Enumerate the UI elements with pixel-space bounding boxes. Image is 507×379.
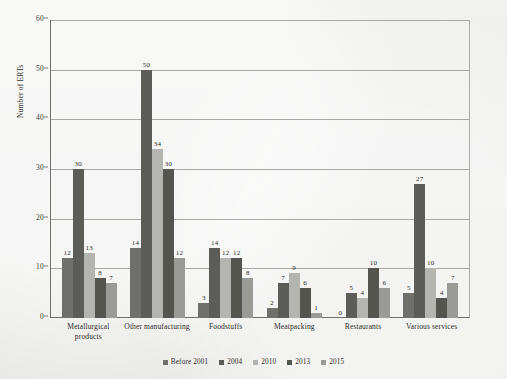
bar-group: 31412128: [198, 20, 253, 318]
bar-group: 1450343012: [130, 20, 185, 318]
bar-group: 12301387: [62, 20, 117, 318]
bar-slot: 27: [414, 20, 425, 318]
legend-swatch-icon: [253, 360, 258, 365]
bar-value-label: 34: [154, 140, 161, 148]
bar[interactable]: [73, 169, 84, 318]
bar-slot: 4: [436, 20, 447, 318]
bar[interactable]: [152, 149, 163, 318]
x-category-line: Meatpacking: [260, 322, 329, 332]
bar[interactable]: [368, 268, 379, 318]
bar[interactable]: [141, 70, 152, 318]
bar-value-label: 8: [246, 269, 250, 277]
bar-slot: 12: [62, 20, 73, 318]
bar[interactable]: [379, 288, 390, 318]
bar-value-label: 9: [292, 264, 296, 272]
bar-value-label: 5: [350, 284, 354, 292]
bar-slot: 8: [95, 20, 106, 318]
y-tick-50: 50: [36, 63, 44, 72]
bar-value-label: 1: [314, 304, 318, 312]
bar[interactable]: [414, 184, 425, 318]
y-tickmark-40: [44, 117, 48, 118]
bar[interactable]: [289, 273, 300, 318]
bar[interactable]: [311, 313, 322, 318]
legend-item[interactable]: 2010: [253, 358, 276, 366]
bar-slot: 14: [209, 20, 220, 318]
bar[interactable]: [62, 258, 73, 318]
bar-value-label: 6: [383, 279, 387, 287]
legend-swatch-icon: [163, 360, 168, 365]
legend-item[interactable]: Before 2001: [163, 358, 208, 366]
bar-group: 054106: [335, 20, 390, 318]
bar[interactable]: [425, 268, 436, 318]
bar-value-label: 14: [211, 239, 218, 247]
y-tickmark-20: [44, 216, 48, 217]
x-category-label: Metallurgicalproducts: [54, 322, 123, 356]
x-category-line: Other manufacturing: [123, 322, 192, 332]
bar[interactable]: [242, 278, 253, 318]
bar[interactable]: [346, 293, 357, 318]
bar[interactable]: [447, 283, 458, 318]
bar-slot: 12: [174, 20, 185, 318]
legend-item[interactable]: 2004: [219, 358, 242, 366]
bar-slot: 6: [379, 20, 390, 318]
bar-slot: 2: [267, 20, 278, 318]
bar-value-label: 10: [370, 259, 377, 267]
bar-groups: 1230138714503430123141212827961054106527…: [51, 20, 469, 318]
bar-value-label: 0: [339, 309, 343, 317]
bar[interactable]: [95, 278, 106, 318]
bar-value-label: 14: [132, 239, 139, 247]
bar[interactable]: [220, 258, 231, 318]
x-category-label: Other manufacturing: [123, 322, 192, 356]
bar[interactable]: [209, 248, 220, 318]
x-category-line: products: [54, 332, 123, 342]
bar[interactable]: [357, 298, 368, 318]
bar[interactable]: [198, 303, 209, 318]
bar-value-label: 12: [233, 249, 240, 257]
bar-slot: 50: [141, 20, 152, 318]
bar-value-label: 2: [270, 299, 274, 307]
bar[interactable]: [300, 288, 311, 318]
legend-label: Before 2001: [171, 358, 208, 366]
bar[interactable]: [403, 293, 414, 318]
x-category-label: Foodstuffs: [191, 322, 260, 356]
bar-slot: 4: [357, 20, 368, 318]
bar-value-label: 13: [85, 244, 92, 252]
bar-slot: 10: [368, 20, 379, 318]
bar-value-label: 7: [281, 274, 285, 282]
bar-slot: 8: [242, 20, 253, 318]
bar-slot: 6: [300, 20, 311, 318]
legend-label: 2010: [261, 358, 276, 366]
bar-slot: 12: [231, 20, 242, 318]
bar[interactable]: [174, 258, 185, 318]
bar[interactable]: [106, 283, 117, 318]
y-tickmark-10: [44, 266, 48, 267]
x-category-label: Various services: [397, 322, 466, 356]
bar[interactable]: [267, 308, 278, 318]
bar-value-label: 27: [416, 175, 423, 183]
legend-item[interactable]: 2015: [321, 358, 344, 366]
bar[interactable]: [130, 248, 141, 318]
bar-group: 5271047: [403, 20, 458, 318]
plot-area: 1230138714503430123141212827961054106527…: [50, 20, 470, 318]
bar-value-label: 30: [74, 160, 81, 168]
bar-slot: 10: [425, 20, 436, 318]
bar-slot: 3: [198, 20, 209, 318]
bar[interactable]: [84, 253, 95, 318]
y-tick-40: 40: [36, 113, 44, 122]
bar-value-label: 5: [407, 284, 411, 292]
legend-item[interactable]: 2013: [287, 358, 310, 366]
bar[interactable]: [278, 283, 289, 318]
bar-slot: 7: [447, 20, 458, 318]
bar[interactable]: [231, 258, 242, 318]
legend-swatch-icon: [219, 360, 224, 365]
bar-value-label: 30: [165, 160, 172, 168]
x-category-label: Restaurants: [329, 322, 398, 356]
y-tickmark-50: [44, 67, 48, 68]
bar[interactable]: [163, 169, 174, 318]
bar-group: 27961: [267, 20, 322, 318]
y-tick-20: 20: [36, 212, 44, 221]
bar[interactable]: [436, 298, 447, 318]
legend-label: 2015: [329, 358, 344, 366]
bar-value-label: 7: [109, 274, 113, 282]
y-tick-60: 60: [36, 14, 44, 23]
